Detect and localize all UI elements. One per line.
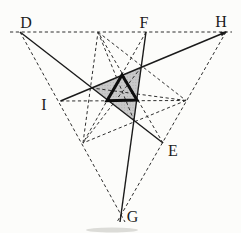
triangle-construction-diagram: DFHIEG — [0, 0, 241, 233]
solid-cevian-lines — [20, 32, 226, 222]
point-label-D: D — [20, 14, 32, 31]
point-label-F: F — [140, 14, 149, 31]
scan-artifact — [86, 228, 138, 233]
dashed-construction-lines — [10, 32, 232, 222]
point-label-G: G — [127, 208, 139, 225]
arrowhead-layer — [220, 31, 227, 36]
point-label-I: I — [41, 96, 46, 113]
point-label-H: H — [215, 13, 227, 30]
point-label-E: E — [168, 142, 178, 159]
solid-cevian-I-H — [61, 32, 227, 101]
arrowhead-at-H — [220, 31, 227, 36]
scan-artifact-layer — [86, 228, 138, 233]
geometry-figure: DFHIEG — [0, 0, 241, 233]
